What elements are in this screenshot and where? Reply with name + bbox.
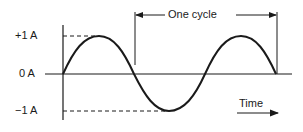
label-neg-1a: −1 A — [15, 105, 37, 116]
sine-wave-diagram — [0, 0, 303, 132]
label-zero: 0 A — [19, 68, 35, 79]
one-cycle-label: One cycle — [168, 9, 217, 20]
time-label: Time — [239, 98, 263, 109]
label-pos-1a: +1 A — [15, 30, 37, 41]
